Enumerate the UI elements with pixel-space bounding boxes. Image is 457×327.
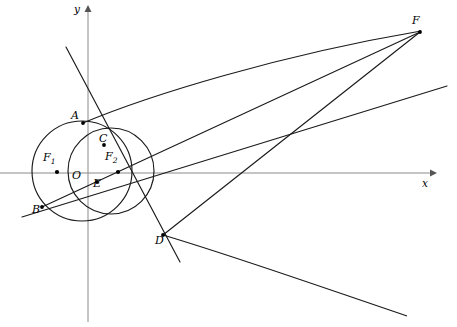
label-focus-F1-letter: F xyxy=(43,151,51,164)
label-focus-F2-letter: F xyxy=(105,150,113,163)
line-through-A-and-D xyxy=(66,47,180,262)
label-focus-F1: F1 xyxy=(43,152,55,166)
dot-F xyxy=(418,30,422,34)
label-point-E: E xyxy=(93,178,101,189)
geometry-figure: A B C D E F O F1 F2 x y xyxy=(0,0,457,327)
axes-group xyxy=(0,5,437,322)
x-axis-arrowhead xyxy=(430,170,437,177)
dot-B xyxy=(40,205,44,209)
label-point-D: D xyxy=(155,235,164,246)
dot-A xyxy=(81,121,85,125)
dot-F2 xyxy=(116,170,120,174)
label-focus-F1-subscript: 1 xyxy=(51,157,56,166)
label-focus-F2: F2 xyxy=(105,151,117,165)
label-point-C: C xyxy=(99,133,107,144)
label-focus-F2-subscript: 2 xyxy=(113,156,118,165)
conic-lower-branch xyxy=(163,235,407,316)
label-point-B: B xyxy=(32,204,40,215)
lines-group xyxy=(22,32,447,262)
geometry-canvas xyxy=(0,0,457,327)
label-point-F: F xyxy=(412,15,420,26)
label-x-axis: x xyxy=(422,178,428,189)
y-axis-arrowhead xyxy=(85,5,92,12)
circles-group xyxy=(32,121,154,221)
dot-F1 xyxy=(55,170,59,174)
line-through-B-E-F2 xyxy=(22,86,447,217)
label-point-A: A xyxy=(71,110,79,121)
point-dots-group xyxy=(40,30,422,237)
label-origin-O: O xyxy=(72,170,81,181)
label-y-axis: y xyxy=(74,4,80,15)
